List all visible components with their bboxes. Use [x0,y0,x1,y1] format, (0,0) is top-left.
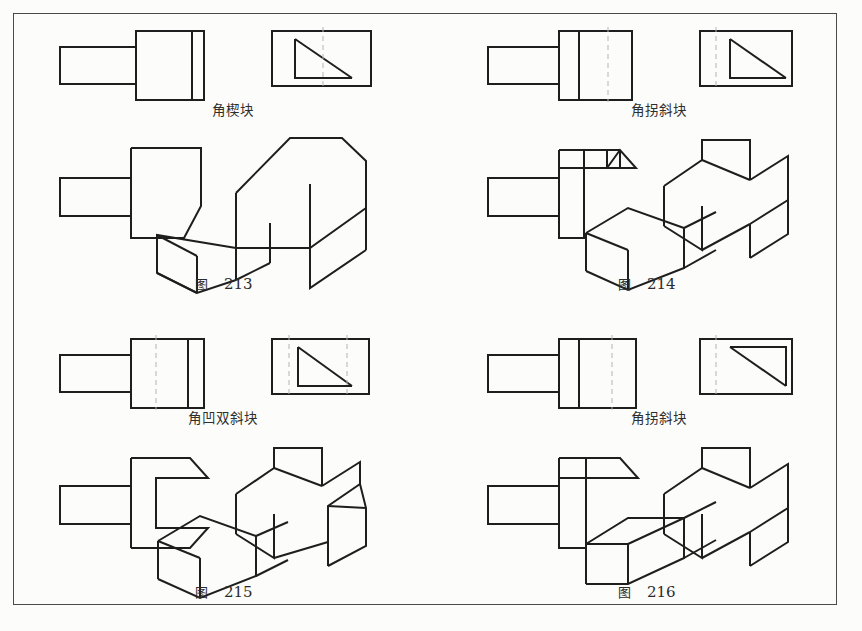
fig-216-triangle-hypotenuse [730,347,786,386]
fig-216-iso-d [702,532,750,558]
fig-213-iso-prism-edge-a [157,273,197,293]
fig-216-detail-leg [559,458,586,548]
fig-214-caption-number: 214 [647,275,676,293]
fig-214-iso-right-a [750,156,788,224]
document-page: 角楔块 [0,0,862,631]
figure-214: 角拐斜块 [468,22,828,313]
fig-214-iso-prism-edge2 [586,233,628,250]
fig-213-body [136,31,204,100]
fig-213-shaft [60,47,136,84]
fig-213-detail-body [131,148,201,238]
fig-214-body [559,31,632,100]
fig-216-iso-prism-top [628,518,684,544]
fig-215-orthographic-views [40,330,400,410]
fig-215-caption-number: 215 [224,583,253,601]
fig-214-part-name: 角拐斜块 [631,99,687,119]
fig-214-iso-right-b [750,200,788,258]
fig-216-iso-diag [702,468,750,488]
figure-215: 角凹双斜块 [40,330,400,621]
fig-215-iso-d [274,542,328,558]
fig-215-part-name: 角凹双斜块 [188,407,258,427]
fig-216-iso-b [750,464,788,532]
fig-215-iso-b [322,462,360,542]
fig-216-caption-number: 216 [647,583,676,601]
fig-215-iso-prism-join2 [256,560,288,576]
fig-214-iso-prism-join2 [684,250,716,268]
fig-214-shaft [488,47,559,84]
fig-216-orthographic-views [468,330,828,410]
fig-214-detail-seg-a [559,150,620,168]
fig-214-iso-diag-a [702,160,750,180]
fig-215-iso-prism-join [256,522,288,536]
fig-216-body [559,339,636,408]
fig-215-iso-diag-a [274,468,322,486]
fig-214-detail-leg [559,150,584,238]
fig-216-iso-prism-join2 [684,502,716,518]
fig-214-detail-bevel [584,150,636,168]
fig-216-caption-word: 图 [618,585,631,600]
fig-214-iso-prism-join [684,212,716,228]
fig-214-orthographic-views [468,22,828,102]
fig-215-caption-word: 图 [195,585,208,600]
fig-214-caption-word: 图 [618,277,631,292]
fig-213-caption-word: 图 [195,277,208,292]
fig-216-iso-e [750,508,788,566]
fig-214-caption: 图214 [618,274,676,293]
fig-215-shaft [60,355,131,392]
fig-215-iso-a [236,448,322,494]
fig-215-iso-f [328,506,366,508]
fig-215-iso-e [328,484,366,566]
fig-213-iso-top-back [236,138,366,208]
fig-213-orthographic-views [40,22,400,102]
fig-215-caption: 图215 [195,582,253,601]
fig-213-caption: 图213 [195,274,253,293]
fig-213-caption-number: 213 [224,275,253,293]
fig-214-triangle-hypotenuse [730,39,786,78]
fig-213-part-name: 角楔块 [212,99,254,119]
fig-214-detail-shaft [488,178,559,216]
fig-216-part-name: 角拐斜块 [631,407,687,427]
fig-215-triangle-hypotenuse [298,347,352,386]
fig-214-iso-bottom-b [702,224,750,250]
fig-213-iso-top-front [236,193,366,248]
fig-216-iso-prism [586,518,684,584]
fig-213-iso-right-face [310,248,366,288]
fig-216-detail-shaft [488,486,559,524]
fig-216-caption: 图216 [618,582,676,601]
fig-215-body [131,339,204,408]
fig-215-detail-shaft [60,486,131,524]
fig-213-detail-shaft [60,178,131,216]
fig-216-detail-top-bevel [559,458,638,478]
figure-213: 角楔块 [40,22,400,313]
fig-216-shaft [488,355,559,392]
figure-216: 角拐斜块 [468,330,828,621]
